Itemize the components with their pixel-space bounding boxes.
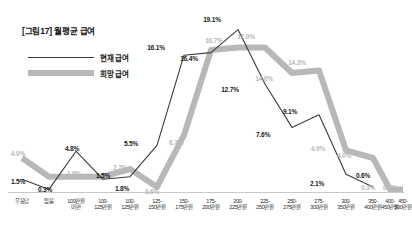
data-label-current: 2.1% bbox=[310, 180, 324, 187]
data-label-desired: 0.6% bbox=[145, 188, 159, 195]
data-label-current: 1.8% bbox=[115, 185, 129, 192]
x-axis-tick-label: 450-500만원 bbox=[394, 198, 412, 211]
x-axis-tick-label: 125-150만원 bbox=[148, 198, 166, 211]
data-label-current: 12.7% bbox=[221, 86, 239, 93]
data-label-desired: 14.3% bbox=[288, 59, 306, 66]
x-axis-tick-label: 225-250만원 bbox=[256, 198, 274, 211]
x-axis-tick-label: 275-300만원 bbox=[310, 198, 328, 211]
data-label-desired: 2.7% bbox=[113, 164, 127, 171]
x-axis-tick-label: 없음 bbox=[44, 198, 53, 204]
data-label-desired: 17.0% bbox=[237, 33, 255, 40]
data-label-desired: 0.3% bbox=[361, 184, 375, 191]
x-axis-tick-label: 175-200만원 bbox=[202, 198, 220, 211]
x-axis-tick-label: 300-350만원 bbox=[337, 198, 355, 211]
data-label-desired: 4.0% bbox=[11, 150, 25, 157]
data-label-current: 16.4% bbox=[180, 55, 198, 62]
x-axis-tick-label: 100-125만원 bbox=[94, 198, 112, 211]
data-label-current: 0.6% bbox=[356, 172, 370, 179]
data-label-desired: 6.7% bbox=[169, 139, 183, 146]
x-axis-line bbox=[8, 192, 404, 193]
data-label-current: 7.6% bbox=[256, 131, 270, 138]
data-label-desired: 14.0% bbox=[255, 75, 273, 82]
data-label-current: 4.8% bbox=[65, 145, 79, 152]
x-axis-tick-label: 250-275만원 bbox=[283, 198, 301, 211]
data-label-current: 0.3% bbox=[38, 186, 52, 193]
x-axis-tick-label: 무응답 bbox=[15, 198, 29, 204]
data-label-desired: 4.0% bbox=[337, 152, 351, 159]
data-label-desired: 4.9% bbox=[311, 145, 325, 152]
data-label-current: 16.1% bbox=[147, 44, 165, 51]
data-label-current: 1.5% bbox=[96, 172, 110, 179]
data-label-current: 9.1% bbox=[283, 108, 297, 115]
x-axis-tick-label: 100만원미만 bbox=[67, 198, 85, 211]
x-axis-tick-label: 150-175만원 bbox=[175, 198, 193, 211]
data-label-desired: 16.7% bbox=[205, 37, 223, 44]
series-line-current-salary bbox=[22, 30, 373, 190]
x-axis-tick-label: 350-400만원 bbox=[364, 198, 382, 211]
x-axis-tick-label: 200-225만원 bbox=[229, 198, 247, 211]
data-label-current: 19.1% bbox=[203, 16, 221, 23]
series-line-desired-salary bbox=[22, 48, 403, 190]
data-label-desired: 0.3% bbox=[383, 184, 397, 191]
data-label-current: 1.5% bbox=[11, 178, 25, 185]
data-label-current: 5.5% bbox=[124, 140, 138, 147]
data-label-desired: 1.8% bbox=[67, 170, 81, 177]
x-axis-tick-label: 100-125만원 bbox=[121, 198, 139, 211]
